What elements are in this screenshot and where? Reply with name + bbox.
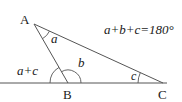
- triangle-diagram: A B C a b c a+c a+b+c=180°: [0, 0, 182, 102]
- angle-arc-c: [138, 73, 140, 83]
- equation-label: a+b+c=180°: [104, 22, 174, 37]
- angle-label-a: a: [51, 31, 58, 46]
- angle-arc-exterior: [50, 67, 59, 83]
- angle-arc-a: [43, 31, 50, 39]
- angle-label-b: b: [78, 55, 85, 70]
- diagram-svg: A B C a b c a+c a+b+c=180°: [0, 0, 182, 102]
- vertex-label-c: C: [158, 87, 167, 102]
- vertex-label-b: B: [63, 87, 72, 102]
- angle-label-exterior: a+c: [17, 63, 38, 78]
- angle-label-c: c: [131, 69, 137, 83]
- vertex-label-a: A: [20, 12, 30, 27]
